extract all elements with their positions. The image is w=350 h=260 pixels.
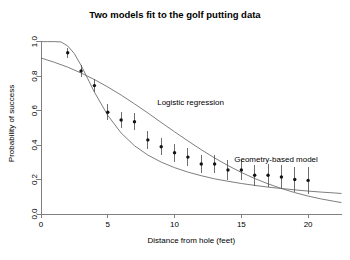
- data-point: [266, 174, 269, 177]
- y-axis-title: Probability of success: [7, 85, 16, 162]
- data-point: [253, 174, 256, 177]
- y-tick-label: 0.0: [30, 208, 39, 220]
- data-point: [160, 145, 163, 148]
- data-point: [293, 178, 296, 181]
- x-tick-label: 0: [39, 220, 44, 229]
- chart-title: Two models fit to the golf putting data: [89, 9, 261, 20]
- chart-container: Two models fit to the golf putting data0…: [0, 0, 350, 260]
- y-tick-label: 1.0: [30, 36, 39, 48]
- annotation-geometry-based-model: Geometry-based model: [234, 155, 318, 164]
- data-point: [226, 168, 229, 171]
- data-point: [106, 111, 109, 114]
- data-point: [240, 168, 243, 171]
- y-tick-label: 0.4: [30, 139, 39, 151]
- x-tick-label: 15: [237, 220, 246, 229]
- data-point: [79, 69, 82, 72]
- model-curve-geometry-based-model: [41, 42, 342, 194]
- data-point: [200, 162, 203, 165]
- data-point: [173, 151, 176, 154]
- y-tick-label: 0.8: [30, 70, 39, 82]
- x-tick-label: 10: [170, 220, 179, 229]
- data-point: [213, 162, 216, 165]
- x-tick-label: 20: [304, 220, 313, 229]
- golf-putting-chart: Two models fit to the golf putting data0…: [0, 0, 350, 260]
- data-point: [146, 138, 149, 141]
- x-axis-title: Distance from hole (feet): [147, 236, 235, 245]
- data-point: [306, 179, 309, 182]
- data-point: [133, 120, 136, 123]
- data-point: [119, 118, 122, 121]
- annotation-logistic-regression: Logistic regression: [157, 98, 224, 107]
- data-point: [66, 51, 69, 54]
- model-curve-logistic-regression: [41, 58, 342, 203]
- y-tick-label: 0.6: [30, 104, 39, 116]
- data-point: [93, 84, 96, 87]
- data-point: [186, 155, 189, 158]
- x-tick-label: 5: [106, 220, 111, 229]
- data-point: [280, 175, 283, 178]
- y-tick-label: 0.2: [30, 173, 39, 185]
